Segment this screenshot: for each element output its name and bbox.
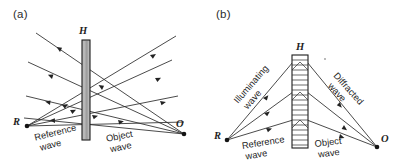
plate-label-b: H xyxy=(295,41,305,52)
hologram-plate-a xyxy=(82,40,90,140)
hologram-plate-b xyxy=(292,55,308,148)
reference-source-label-b: R xyxy=(213,130,221,141)
panel-b-group: H R O Illuminating wave Diffracted wave … xyxy=(213,41,389,162)
scan-speck xyxy=(324,58,326,60)
panel-label-b: (b) xyxy=(216,8,231,20)
image-point-label-b: O xyxy=(381,133,389,144)
reference-source-point-b xyxy=(225,138,230,143)
reference-source-label-a: R xyxy=(12,116,20,127)
panel-label-a: (a) xyxy=(13,8,28,20)
object-source-point-a xyxy=(182,132,187,137)
diffracted-ray-arrowheads xyxy=(336,102,348,140)
reference-ray-2 xyxy=(27,60,172,126)
object-source-label-a: O xyxy=(176,118,184,129)
reference-wave-label-b: Reference wave xyxy=(241,134,287,161)
reference-source-point-a xyxy=(25,124,30,129)
object-wave-label-a: Object wave xyxy=(105,129,136,155)
svg-text:wave: wave xyxy=(316,147,340,160)
holography-figure: (a) (b) xyxy=(0,0,413,167)
illuminating-wave-label-b: Illuminating wave xyxy=(232,63,279,112)
reference-ray-4 xyxy=(27,122,184,126)
reference-ray-arrowheads xyxy=(62,52,166,124)
panel-a-group: H R O Reference wave Object wave xyxy=(12,25,186,155)
image-point-b xyxy=(375,145,380,150)
reference-ray-1 xyxy=(27,36,176,126)
svg-text:wave: wave xyxy=(244,148,268,161)
figure-canvas: H R O Reference wave Object wave xyxy=(0,0,413,167)
object-ray-2 xyxy=(28,62,184,134)
reference-ray-3 xyxy=(27,96,178,126)
reference-wave-label-a: Reference wave xyxy=(33,123,80,154)
panel-a-object-rays xyxy=(24,33,184,134)
plate-label-a: H xyxy=(78,25,88,36)
panel-a-reference-rays xyxy=(27,36,184,126)
object-wave-label-b: Object wave xyxy=(314,136,344,160)
